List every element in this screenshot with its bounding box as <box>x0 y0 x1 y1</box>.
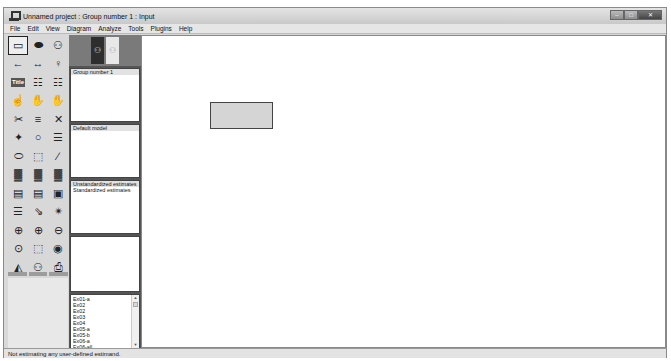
loupe-icon: ◉ <box>53 243 63 254</box>
fit-to-page-button[interactable]: ⬚ <box>28 240 48 259</box>
output-path-diagram-icon: ⚇ <box>109 46 116 55</box>
copy-clipboard-button[interactable]: ▤ <box>8 184 28 203</box>
groups-panel: Group number 1 <box>70 68 140 122</box>
erase-x-icon: ✕ <box>54 114 63 125</box>
figure-caption-button[interactable]: Title <box>11 78 25 87</box>
analysis-properties-button[interactable]: ▓ <box>28 166 48 185</box>
change-shape-button[interactable]: ✦ <box>8 129 28 148</box>
view-text-button[interactable]: ▤ <box>28 184 48 203</box>
zoom-page-button[interactable]: ⊙ <box>8 240 28 259</box>
arrow-left-icon: ← <box>13 58 24 69</box>
unique-variable-icon: ♀ <box>54 58 62 69</box>
draw-observed-variable-button[interactable]: ▭ <box>8 36 28 55</box>
computation-summary-panel <box>70 236 140 292</box>
maximize-button[interactable]: □ <box>624 10 638 20</box>
observed-variable-box[interactable] <box>210 102 273 129</box>
list-variables-dataset-button[interactable]: ☷ <box>48 73 68 92</box>
menu-tools[interactable]: Tools <box>128 25 143 32</box>
reflect-icon: ☰ <box>53 132 63 143</box>
window-controls: – □ ✕ <box>610 10 662 20</box>
preserve-symmetries-button[interactable]: ✴ <box>48 203 68 222</box>
menu-diagram[interactable]: Diagram <box>67 25 92 32</box>
clipboard-icon: ▤ <box>13 188 23 199</box>
toolbox: ▭ ⬬ ⚇ ← ↔ ♀ Title ☷ ☷ ☝ ✋ ✋ ✂ ≡ ✕ ✦ ○ ☰ … <box>8 36 68 273</box>
erase-button[interactable]: ✕ <box>48 110 68 129</box>
scroll-up-icon[interactable]: ▲ <box>132 295 139 301</box>
select-one-button[interactable]: ☝ <box>8 92 28 111</box>
menu-help[interactable]: Help <box>179 25 192 32</box>
model-item[interactable]: Default model <box>71 125 139 131</box>
add-unique-variable-button[interactable]: ♀ <box>48 55 68 74</box>
models-panel: Default model <box>70 124 140 178</box>
save-button[interactable]: ▣ <box>48 184 68 203</box>
duplicate-button[interactable]: ✂ <box>8 110 28 129</box>
files-list: Ex01-a Ex02 Ex02 Ex03 Ex04 Ex05-a Ex05-b… <box>71 295 132 348</box>
scroll-button[interactable]: ⬚ <box>28 147 48 166</box>
zoom-in-button[interactable]: ⊕ <box>28 221 48 240</box>
menu-file[interactable]: File <box>10 25 20 32</box>
calculate-estimates-button[interactable]: ▓ <box>48 166 68 185</box>
fit-page-icon: ⬚ <box>33 243 43 254</box>
wand-icon: ∕ <box>57 151 59 162</box>
select-data-files-button[interactable]: ▓ <box>8 166 28 185</box>
close-button[interactable]: ✕ <box>638 10 662 20</box>
side-panels: ⚇ ⚇ Group number 1 Default model Unstand… <box>69 35 141 349</box>
move-button[interactable]: ≡ <box>28 110 48 129</box>
draw-unobserved-variable-button[interactable]: ⬬ <box>28 36 48 55</box>
menu-edit[interactable]: Edit <box>27 25 38 32</box>
toolbox-strip <box>8 272 68 276</box>
object-properties-button[interactable]: ☰ <box>8 203 28 222</box>
rotate-icon: ○ <box>35 132 42 143</box>
reflect-indicators-button[interactable]: ☰ <box>48 129 68 148</box>
draw-latent-indicator-button[interactable]: ⚇ <box>48 36 68 55</box>
input-path-diagram-icon: ⚇ <box>94 46 101 55</box>
drag-properties-icon: ⇘ <box>34 206 43 217</box>
copy-machine-icon: ✂ <box>14 114 23 125</box>
latent-indicator-icon: ⚇ <box>53 40 63 51</box>
touch-up-button[interactable]: ∕ <box>48 147 68 166</box>
parameter-icon: ⬭ <box>14 151 23 162</box>
loupe-button[interactable]: ◉ <box>48 240 68 259</box>
move-parameters-button[interactable]: ⬭ <box>8 147 28 166</box>
scroll-thumb[interactable] <box>133 302 138 307</box>
rotate-indicators-button[interactable]: ○ <box>28 129 48 148</box>
zoom-area-button[interactable]: ⊕ <box>8 221 28 240</box>
hand-open-icon: ✋ <box>51 95 65 106</box>
double-arrow-icon: ↔ <box>33 58 44 69</box>
toolbox-empty-area <box>8 278 68 348</box>
zoom-page-icon: ⊙ <box>14 243 23 254</box>
view-input-button[interactable]: ⚇ <box>91 37 104 64</box>
zoom-out-button[interactable]: ⊖ <box>48 221 68 240</box>
text-output-icon: ▤ <box>33 188 43 199</box>
minimize-button[interactable]: – <box>610 10 624 20</box>
drag-properties-button[interactable]: ⇘ <box>28 203 48 222</box>
floppy-disk-icon: ▣ <box>53 188 63 199</box>
menu-view[interactable]: View <box>46 25 60 32</box>
group-item[interactable]: Group number 1 <box>71 69 139 75</box>
draw-covariance-button[interactable]: ↔ <box>28 55 48 74</box>
scroll-icon: ⬚ <box>33 151 43 162</box>
calculate-icon: ▓ <box>54 169 62 180</box>
menu-plugins[interactable]: Plugins <box>151 25 172 32</box>
files-panel: Ex01-a Ex02 Ex02 Ex03 Ex04 Ex05-a Ex05-b… <box>70 294 140 349</box>
path-diagram-canvas[interactable] <box>141 35 666 348</box>
title-icon: Title <box>12 79 24 85</box>
list-variables-model-button[interactable]: ☷ <box>28 73 48 92</box>
abacus-icon: ▓ <box>34 169 42 180</box>
estimate-item-standardized[interactable]: Standardized estimates <box>71 187 139 193</box>
view-output-button[interactable]: ⚇ <box>106 37 119 64</box>
amos-window: Unnamed project : Group number 1 : Input… <box>3 7 667 358</box>
files-scrollbar[interactable]: ▲ ▼ <box>131 295 139 348</box>
draw-path-button[interactable]: ← <box>8 55 28 74</box>
estimates-panel: Unstandardized estimates Standardized es… <box>70 180 140 234</box>
list-icon: ☷ <box>33 77 43 88</box>
zoom-in-icon: ⊕ <box>34 225 43 236</box>
zoom-area-icon: ⊕ <box>14 225 23 236</box>
menu-analyze[interactable]: Analyze <box>98 25 121 32</box>
deselect-all-button[interactable]: ✋ <box>48 92 68 111</box>
list-icon: ☷ <box>53 77 63 88</box>
select-all-button[interactable]: ✋ <box>28 92 48 111</box>
data-file-icon: ▓ <box>14 169 22 180</box>
properties-icon: ☰ <box>13 206 23 217</box>
hand-pointer-icon: ☝ <box>11 95 25 106</box>
